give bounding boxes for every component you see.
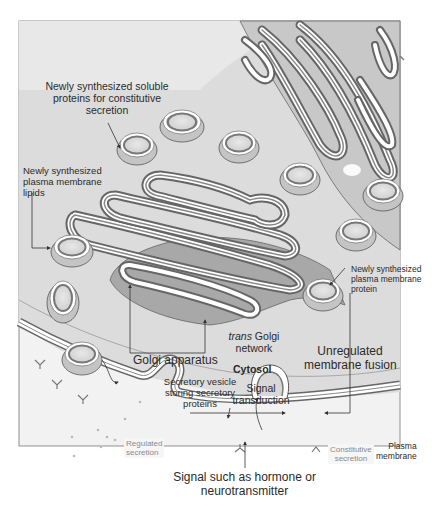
- label-line: protein: [351, 285, 421, 295]
- label-line: transduction: [230, 394, 292, 406]
- label-line: Newly synthesized soluble: [42, 80, 172, 92]
- label-signal-source: Signal such as hormone or neurotransmitt…: [157, 471, 332, 499]
- vesicle: [219, 131, 259, 163]
- label-membrane-lipids: Newly synthesized plasma membrane lipids: [23, 166, 102, 199]
- label-line: Constitutive: [330, 445, 372, 454]
- label-line: secretion: [126, 448, 162, 457]
- label-line: Signal such as hormone or: [157, 471, 332, 485]
- label-signal-transduction: Signal transduction: [230, 382, 292, 406]
- label-italic: trans: [229, 330, 252, 342]
- vesicle: [280, 163, 320, 195]
- label-line: Regulated: [126, 439, 162, 448]
- label-membrane-protein: Newly synthesized plasma membrane protei…: [351, 265, 421, 294]
- vesicle: [336, 219, 376, 251]
- label-constitutive-secretion: Constitutive secretion: [328, 444, 374, 464]
- label-line: lipids: [23, 188, 102, 199]
- label-line: neurotransmitter: [157, 485, 332, 499]
- label-line: Signal: [230, 382, 292, 394]
- vesicle: [363, 179, 403, 211]
- label-line: secretion: [42, 104, 172, 116]
- label-golgi-apparatus: Golgi apparatus: [133, 354, 218, 368]
- label-line: network: [226, 342, 282, 354]
- label-line: membrane: [376, 452, 417, 462]
- label-line: proteins for constitutive: [42, 92, 172, 104]
- secretory-vesicle: [62, 342, 102, 375]
- label-plasma-membrane: Plasma membrane: [376, 442, 417, 462]
- label-line: trans Golgi: [226, 330, 282, 342]
- label-soluble-proteins: Newly synthesized soluble proteins for c…: [42, 80, 172, 116]
- golgi-secretion-diagram: [0, 0, 435, 512]
- vesicle-membrane-protein: [303, 279, 343, 311]
- label-text: Golgi: [252, 330, 279, 342]
- label-line: Unregulated: [304, 345, 396, 359]
- label-regulated-secretion: Regulated secretion: [124, 438, 164, 458]
- vesicle: [117, 133, 157, 165]
- label-trans-golgi-network: trans Golgi network: [226, 330, 282, 354]
- label-line: membrane fusion: [304, 359, 396, 373]
- label-unregulated-fusion: Unregulated membrane fusion: [304, 345, 396, 373]
- label-line: secretion: [330, 454, 372, 463]
- label-cytosol: Cytosol: [233, 363, 272, 375]
- vesicle-lipids: [51, 235, 93, 267]
